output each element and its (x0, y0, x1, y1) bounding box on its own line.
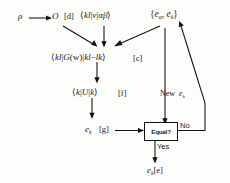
ket-close: ⟩ (94, 87, 98, 97)
node-density-rho: ρ (18, 11, 22, 21)
arrow-green-to-fock (94, 62, 99, 84)
node-ek-trial: ek (85, 124, 91, 135)
node-overlap-O: O (52, 11, 59, 21)
node-green-function: ⟨kl|G(w)|kl−lk⟩ (51, 52, 106, 62)
subscript-k: k (183, 94, 185, 99)
argument-w: (w) (70, 52, 83, 62)
arrow-energyset-to-green (114, 26, 160, 47)
ket-close: ⟩ (102, 52, 106, 62)
arrow-d-to-green (63, 26, 98, 47)
diagram-canvas: ρ O [d] ⟨kl|v|αβ⟩ {ea, ek} ⟨kl|G(w)|kl−l… (0, 0, 230, 183)
node-ek-final: ek[e] (147, 165, 163, 176)
arrow-energyset-to-decision (162, 28, 167, 125)
label-branch-yes: Yes (157, 142, 169, 151)
comma: , (162, 9, 164, 19)
arrow-rho-to-overlap (29, 15, 52, 20)
tag-c: [c] (133, 53, 142, 63)
arrow-ek-to-decision (115, 128, 144, 133)
brace-close: } (173, 9, 178, 19)
label-new-ek: New ek (160, 89, 185, 99)
node-two-electron-integral: ⟨kl|v|αβ⟩ (80, 10, 111, 20)
connector-layer (0, 0, 230, 183)
node-potential-matrix: ⟨k|U|k⟩ (72, 87, 98, 97)
arrow-twoelectron-to-green (101, 26, 106, 48)
tag-d: [d] (64, 11, 74, 21)
arrow-fock-to-ek (89, 98, 94, 119)
tag-g: [g] (99, 124, 109, 134)
arrow-no-feedback (176, 21, 205, 131)
tag-e: [e] (153, 165, 162, 175)
subscript-k: k (89, 129, 91, 135)
ket-close: ⟩ (107, 10, 111, 20)
tag-f: [f] (118, 88, 127, 98)
decision-equal[interactable]: Equal? (144, 122, 178, 141)
word-new: New (160, 89, 175, 98)
label-branch-no: No (180, 121, 190, 130)
node-energy-set: {ea, ek} (150, 9, 178, 20)
